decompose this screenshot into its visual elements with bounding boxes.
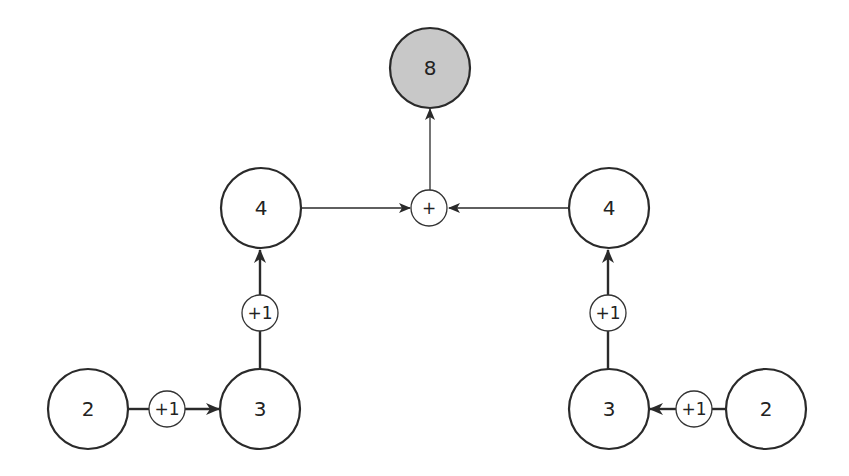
node-label: 3 <box>603 397 616 421</box>
node-left-3: 3 <box>220 369 300 449</box>
op-label: +1 <box>154 399 179 419</box>
node-label: 3 <box>254 397 267 421</box>
op-label: +1 <box>681 399 706 419</box>
node-label: 4 <box>255 196 268 220</box>
node-label: 4 <box>603 196 616 220</box>
op-label: + <box>422 198 436 218</box>
edges <box>128 109 726 409</box>
op-left-horizontal-plus1: +1 <box>149 391 185 427</box>
node-label: 2 <box>82 397 95 421</box>
node-left-4: 4 <box>221 168 301 248</box>
op-plus: + <box>411 190 447 226</box>
addition-tree-diagram: 8 + 4 4 +1 +1 3 3 +1 +1 2 2 <box>0 0 849 476</box>
op-right-horizontal-plus1: +1 <box>676 391 712 427</box>
node-label: 2 <box>760 397 773 421</box>
op-label: +1 <box>247 303 272 323</box>
node-right-3: 3 <box>569 369 649 449</box>
node-result-8: 8 <box>390 28 470 108</box>
node-right-4: 4 <box>569 168 649 248</box>
node-label: 8 <box>424 56 437 80</box>
op-right-vertical-plus1: +1 <box>590 295 626 331</box>
op-label: +1 <box>595 303 620 323</box>
node-right-2: 2 <box>726 369 806 449</box>
op-left-vertical-plus1: +1 <box>242 295 278 331</box>
node-left-2: 2 <box>48 369 128 449</box>
